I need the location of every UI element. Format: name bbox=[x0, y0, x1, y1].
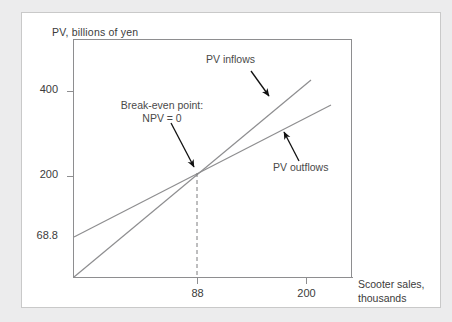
y-tick-label-200: 200 bbox=[40, 168, 58, 180]
y-tick-label-68-8: 68.8 bbox=[37, 229, 58, 241]
break-even-arrow bbox=[171, 123, 194, 167]
y-axis-title: PV, billions of yen bbox=[52, 26, 138, 38]
x-axis-title-line1: Scooter sales, bbox=[358, 277, 425, 291]
pv-outflows-arrow bbox=[284, 132, 299, 161]
annotation-pv-outflows-line1: PV outflows bbox=[273, 161, 328, 174]
annotation-break-even: Break-even point: NPV = 0 bbox=[103, 99, 221, 125]
plot-area: 400 200 68.8 88 200 Scooter sales, thous… bbox=[73, 39, 352, 290]
figure-panel: PV, billions of yen 400 200 68.8 88 200 … bbox=[21, 12, 441, 308]
x-axis-title: Scooter sales, thousands bbox=[358, 277, 425, 305]
x-axis-title-line2: thousands bbox=[358, 291, 425, 305]
annotation-break-even-line2: NPV = 0 bbox=[103, 112, 221, 125]
annotation-pv-inflows: PV inflows bbox=[206, 53, 255, 66]
annotation-pv-outflows: PV outflows bbox=[273, 161, 328, 174]
y-tick-label-400: 400 bbox=[40, 83, 58, 95]
annotation-pv-inflows-line1: PV inflows bbox=[206, 53, 255, 66]
pv-inflows-arrow bbox=[251, 71, 269, 96]
annotation-break-even-line1: Break-even point: bbox=[103, 99, 221, 112]
